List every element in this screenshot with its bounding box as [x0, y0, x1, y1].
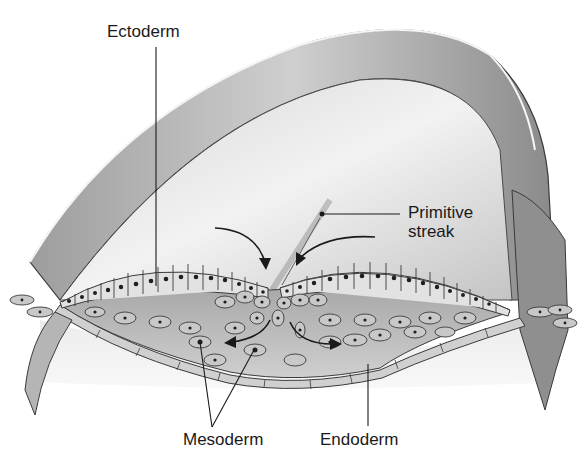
label-endoderm: Endoderm	[320, 430, 398, 449]
label-ectoderm: Ectoderm	[107, 22, 180, 41]
gastrulation-diagram: Ectoderm Primitive streak Mesoderm Endod…	[0, 0, 585, 451]
label-primitive-streak: Primitive streak	[408, 203, 473, 241]
diagram-illustration	[0, 0, 585, 451]
label-mesoderm: Mesoderm	[183, 430, 263, 449]
label-primitive-streak-line2: streak	[408, 222, 473, 241]
label-primitive-streak-line1: Primitive	[408, 203, 473, 222]
